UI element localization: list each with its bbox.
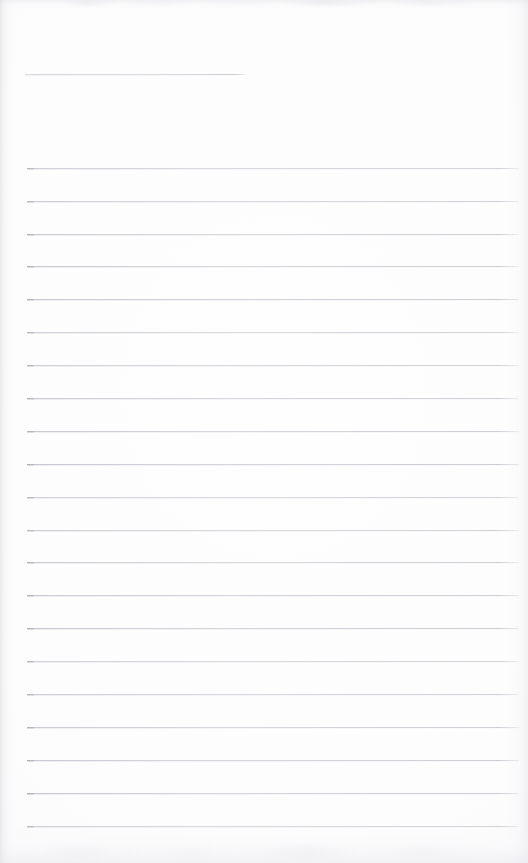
ruled-line	[27, 365, 519, 366]
ruled-line	[27, 332, 519, 333]
ruled-lines-group	[0, 0, 528, 863]
ruled-line	[27, 595, 519, 596]
ruled-line	[27, 299, 519, 300]
ruled-line	[27, 562, 519, 563]
scanned-page	[0, 0, 528, 863]
ruled-line	[27, 398, 519, 399]
ruled-line	[27, 760, 519, 761]
ruled-line	[27, 266, 519, 267]
ruled-line	[27, 727, 519, 728]
ruled-line	[27, 661, 519, 662]
ruled-line	[27, 497, 519, 498]
ruled-line	[27, 168, 519, 169]
ruled-line	[27, 694, 519, 695]
ruled-line	[27, 793, 519, 794]
ruled-line	[27, 530, 519, 531]
ruled-line	[27, 464, 519, 465]
ruled-line	[27, 201, 519, 202]
ruled-line	[27, 234, 519, 235]
ruled-line	[27, 431, 519, 432]
ruled-line	[27, 826, 519, 827]
ruled-line	[27, 628, 519, 629]
